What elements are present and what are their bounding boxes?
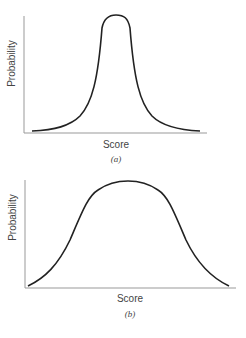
x-axis-label-b: Score [100,293,160,304]
y-axis-label-b: Probability [7,183,18,253]
plot-area-b [0,0,246,338]
caption-b: (b) [115,309,145,319]
distribution-curve-b [28,181,229,286]
chart-panel-b: Probability Score (b) [0,0,246,338]
